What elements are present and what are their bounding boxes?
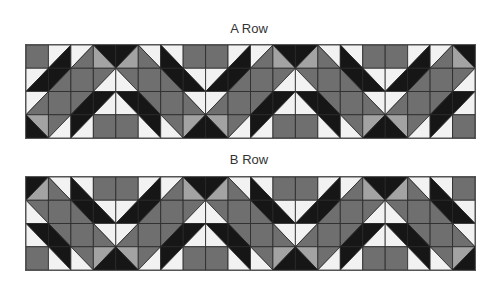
quilt-cell [273, 177, 295, 200]
quilt-cell [430, 68, 452, 91]
quilt-cell [206, 247, 228, 270]
quilt-cell [116, 68, 138, 91]
quilt-cell [453, 200, 475, 223]
quilt-cell [363, 200, 385, 223]
quilt-cell [228, 177, 250, 200]
quilt-cell [206, 115, 228, 138]
quilt-cell [363, 45, 385, 68]
quilt-cell [453, 68, 475, 91]
quilt-cell [363, 247, 385, 270]
quilt-cell [228, 92, 250, 115]
quilt-cell [26, 200, 48, 223]
quilt-cell [295, 177, 317, 200]
quilt-cell [26, 68, 48, 91]
quilt-cell [116, 92, 138, 115]
quilt-cell [116, 177, 138, 200]
quilt-cell [318, 247, 340, 270]
quilt-cell [161, 247, 183, 270]
quilt-cell [340, 45, 362, 68]
quilt-cell [183, 115, 205, 138]
quilt-cell [251, 224, 273, 247]
quilt-cell [453, 45, 475, 68]
quilt-cell [228, 224, 250, 247]
quilt-cell [251, 115, 273, 138]
quilt-cell [183, 177, 205, 200]
quilt-cell [26, 224, 48, 247]
quilt-cell [295, 115, 317, 138]
quilt-cell [273, 68, 295, 91]
quilt-cell [363, 92, 385, 115]
quilt-cell [408, 177, 430, 200]
quilt-cell [228, 115, 250, 138]
quilt-cell [385, 200, 407, 223]
quilt-cell [318, 92, 340, 115]
quilt-cell [385, 115, 407, 138]
quilt-cell [273, 92, 295, 115]
quilt-cell [161, 224, 183, 247]
quilt-cell [453, 224, 475, 247]
quilt-cell [138, 68, 160, 91]
b-row-title: B Row [0, 152, 498, 167]
quilt-cell [430, 224, 452, 247]
quilt-cell [116, 45, 138, 68]
quilt-cell [251, 200, 273, 223]
quilt-cell [48, 68, 70, 91]
quilt-cell [295, 68, 317, 91]
quilt-cell [408, 224, 430, 247]
quilt-cell [161, 45, 183, 68]
quilt-cell [273, 45, 295, 68]
quilt-cell [183, 92, 205, 115]
quilt-cell [318, 115, 340, 138]
quilt-cell [206, 45, 228, 68]
quilt-cell [273, 224, 295, 247]
quilt-cell [71, 45, 93, 68]
quilt-cell [273, 247, 295, 270]
quilt-cell [453, 247, 475, 270]
quilt-cell [48, 247, 70, 270]
quilt-cell [26, 177, 48, 200]
quilt-cell [363, 115, 385, 138]
quilt-cell [385, 68, 407, 91]
quilt-cell [430, 115, 452, 138]
quilt-cell [93, 200, 115, 223]
quilt-cell [48, 200, 70, 223]
quilt-cell [228, 200, 250, 223]
quilt-cell [206, 68, 228, 91]
quilt-cell [183, 247, 205, 270]
quilt-cell [71, 247, 93, 270]
quilt-cell [183, 45, 205, 68]
quilt-cell [408, 200, 430, 223]
quilt-cell [138, 115, 160, 138]
quilt-cell [453, 177, 475, 200]
quilt-cell [430, 177, 452, 200]
quilt-cell [318, 68, 340, 91]
quilt-cell [183, 224, 205, 247]
quilt-cell [318, 224, 340, 247]
quilt-cell [116, 224, 138, 247]
quilt-cell [138, 224, 160, 247]
quilt-cell [93, 247, 115, 270]
quilt-cell [408, 115, 430, 138]
quilt-cell [138, 200, 160, 223]
quilt-cell [138, 177, 160, 200]
quilt-cell [363, 224, 385, 247]
quilt-cell [408, 247, 430, 270]
quilt-cell [295, 45, 317, 68]
quilt-cell [430, 200, 452, 223]
quilt-cell [340, 224, 362, 247]
quilt-cell [93, 92, 115, 115]
quilt-cell [183, 200, 205, 223]
quilt-cell [26, 92, 48, 115]
quilt-cell [340, 177, 362, 200]
quilt-cell [453, 92, 475, 115]
a-row-quilt [25, 44, 476, 139]
quilt-cell [93, 224, 115, 247]
quilt-cell [26, 247, 48, 270]
quilt-cell [295, 200, 317, 223]
quilt-cell [71, 224, 93, 247]
quilt-cell [71, 92, 93, 115]
quilt-cell [295, 92, 317, 115]
quilt-cell [116, 200, 138, 223]
quilt-cell [363, 177, 385, 200]
quilt-cell [116, 247, 138, 270]
